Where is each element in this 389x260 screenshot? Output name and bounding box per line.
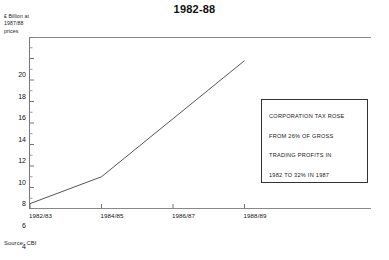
chart-figure: 1982-88 £ Billion at 1987/88 prices 2018… xyxy=(0,0,389,260)
y-axis-ticks xyxy=(30,37,35,209)
y-axis-caption-line-2: 1987/88 xyxy=(4,20,60,27)
x-axis-tick-label: 1986/87 xyxy=(172,212,195,219)
x-axis-tick-labels: 1982/831984/851986/871988/89 xyxy=(29,212,371,224)
x-axis-tick-label: 1988/89 xyxy=(244,212,267,219)
annotation-line-2: FROM 26% OF GROSS xyxy=(269,127,367,147)
y-axis-tick-label: 14 xyxy=(4,135,26,142)
x-axis-tick-label: 1984/85 xyxy=(101,212,124,219)
y-axis-caption: £ Billion at 1987/88 prices xyxy=(4,13,60,35)
y-axis-caption-line-3: prices xyxy=(4,28,60,35)
x-axis-tick-label: 1982/83 xyxy=(29,212,52,219)
annotation-line-3: TRADING PROFITS IN xyxy=(269,146,367,166)
annotation-line-1: CORPORATION TAX ROSE xyxy=(269,107,367,127)
y-axis-tick-label: 6 xyxy=(4,221,26,228)
annotation-callout-box: CORPORATION TAX ROSE FROM 26% OF GROSS T… xyxy=(261,99,368,183)
y-axis-tick-label: 10 xyxy=(4,178,26,185)
source-note: Source: CBI xyxy=(4,240,36,246)
y-axis-tick-label: 8 xyxy=(4,200,26,207)
data-series-line xyxy=(30,61,245,204)
y-axis-caption-line-1: £ Billion at xyxy=(4,13,60,20)
x-axis-ticks xyxy=(30,204,245,209)
y-axis-tick-label: 20 xyxy=(4,71,26,78)
y-axis-tick-labels: 201816141210864 xyxy=(0,37,26,209)
annotation-line-4: 1982 TO 32% IN 1987 xyxy=(269,166,367,186)
y-axis-tick-label: 12 xyxy=(4,157,26,164)
y-axis-tick-label: 16 xyxy=(4,114,26,121)
y-axis-tick-label: 18 xyxy=(4,92,26,99)
